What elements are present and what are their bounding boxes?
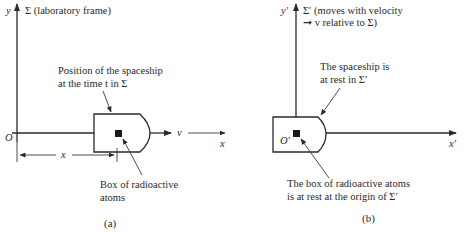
y-axis-label-b: y′ bbox=[280, 5, 289, 16]
box-note-a-line2: atoms bbox=[100, 192, 125, 203]
relativity-frames-diagram: y Σ (laboratory frame) O v x x Position … bbox=[0, 0, 464, 233]
spaceship-note-a-line1: Position of the spaceship bbox=[58, 65, 163, 76]
distance-label: x bbox=[60, 149, 66, 160]
frame-label-a: Σ (laboratory frame) bbox=[25, 5, 111, 17]
y-axis-label-a: y bbox=[5, 5, 11, 16]
spaceship-pointer-b bbox=[321, 88, 340, 115]
radioactive-box-a bbox=[115, 130, 122, 137]
frame-label-b-line1: Σ′ (moves with velocity bbox=[303, 5, 403, 17]
spaceship-note-a-line2: at the time t in Σ bbox=[58, 78, 127, 89]
x-axis-label-b: x′ bbox=[448, 138, 457, 149]
box-note-b-line2: is at rest at the origin of Σ′ bbox=[287, 191, 398, 202]
box-pointer-b bbox=[301, 139, 329, 178]
panel-a: y Σ (laboratory frame) O v x x Position … bbox=[5, 4, 225, 230]
caption-b: (b) bbox=[362, 212, 375, 225]
origin-label-b: O′ bbox=[280, 135, 291, 146]
spaceship-pointer-a bbox=[103, 91, 111, 112]
frame-label-b-line2: ➞ v relative to Σ) bbox=[303, 17, 378, 29]
x-axis-label-a: x bbox=[219, 138, 225, 149]
box-note-b-line1: The box of radioactive atoms bbox=[287, 178, 410, 189]
spaceship-note-b-line1: The spaceship is bbox=[320, 61, 389, 72]
box-note-a-line1: Box of radioactive bbox=[100, 179, 178, 190]
radioactive-box-b bbox=[293, 130, 300, 137]
velocity-label: v bbox=[177, 127, 182, 138]
panel-b: y′ Σ′ (moves with velocity ➞ v relative … bbox=[273, 4, 457, 225]
caption-a: (a) bbox=[104, 217, 117, 230]
spaceship-note-b-line2: at rest in Σ′ bbox=[320, 74, 367, 85]
box-pointer-a bbox=[123, 139, 142, 175]
origin-label-a: O bbox=[5, 132, 13, 143]
